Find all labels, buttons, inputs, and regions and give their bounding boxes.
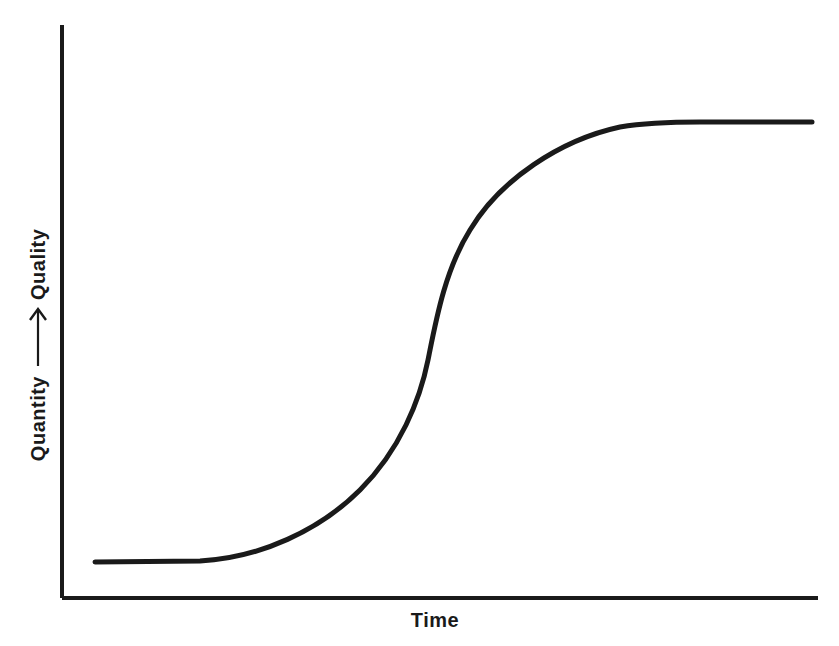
y-axis-label-quantity: Quantity xyxy=(27,376,49,461)
s-curve-line xyxy=(95,122,812,562)
x-axis-label: Time xyxy=(411,609,459,631)
s-curve-diagram: Time Quantity Quality xyxy=(0,0,839,646)
y-axis-label-group: Quantity Quality xyxy=(27,228,49,461)
arrow-right-icon xyxy=(30,309,46,366)
y-axis-label-quality: Quality xyxy=(27,228,49,300)
